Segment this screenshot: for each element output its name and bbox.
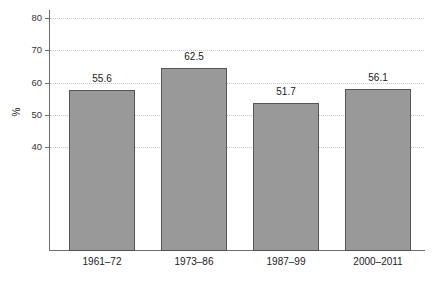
y-tick-label-60-wrap: 60 — [0, 78, 42, 88]
bar-3[interactable] — [345, 89, 411, 251]
y-tick-60 — [45, 83, 49, 84]
gridline-70 — [50, 50, 424, 52]
y-tick-70 — [45, 50, 49, 51]
y-tick-label-80-wrap: 80 — [0, 13, 42, 23]
bar-value-label-0: 55.6 — [69, 74, 135, 84]
y-tick-80 — [45, 18, 49, 19]
bar-value-label-2: 51.7 — [253, 87, 319, 97]
gridline-80 — [50, 18, 424, 20]
y-tick-label-60: 60 — [0, 78, 42, 88]
y-axis-line — [49, 10, 50, 251]
bar-value-label-1: 62.5 — [161, 52, 227, 62]
bar-2[interactable] — [253, 103, 319, 251]
y-tick-label-40-wrap: 40 — [0, 142, 42, 152]
x-axis-label-0: 1961–72 — [59, 257, 145, 267]
x-axis-label-2: 1987–99 — [243, 257, 329, 267]
y-tick-40 — [45, 147, 49, 148]
x-axis-label-1: 1973–86 — [151, 257, 237, 267]
bar-value-label-3: 56.1 — [345, 73, 411, 83]
bar-1[interactable] — [161, 68, 227, 251]
y-tick-label-80: 80 — [0, 13, 42, 23]
bar-chart: 80 70 60 50 40 % 55.6 62.5 51.7 56.1 196… — [0, 0, 432, 283]
y-tick-label-70-wrap: 70 — [0, 45, 42, 55]
y-tick-50 — [45, 115, 49, 116]
x-axis-label-3: 2000–2011 — [335, 257, 421, 267]
bar-0[interactable] — [69, 90, 135, 251]
y-tick-label-70: 70 — [0, 45, 42, 55]
y-tick-label-40: 40 — [0, 142, 42, 152]
y-axis-title: % — [9, 104, 25, 120]
